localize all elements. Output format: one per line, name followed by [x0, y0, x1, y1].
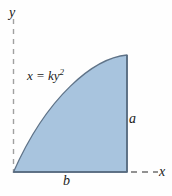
width-dimension-label-b: b: [63, 174, 70, 188]
figure-svg: [0, 0, 172, 196]
curve-equation-text: x = ky: [27, 68, 60, 83]
curve-equation-exponent: 2: [60, 67, 65, 77]
x-axis-label: x: [159, 165, 165, 179]
y-axis-label: y: [9, 6, 15, 20]
curve-equation-label: x = ky2: [27, 69, 64, 82]
height-dimension-label-a: a: [129, 112, 136, 126]
figure-container: y x a b x = ky2: [0, 0, 172, 196]
